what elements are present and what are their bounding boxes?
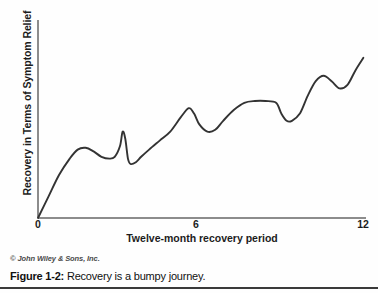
x-axis-label: Twelve-month recovery period xyxy=(38,232,366,244)
copyright-credit: © John Wiley & Sons, Inc. xyxy=(10,254,100,263)
figure-caption: Figure 1-2: Recovery is a bumpy journey. xyxy=(10,270,205,282)
chart-plot-area: Recovery in Terms of Symptom Relief 0 6 … xyxy=(0,0,378,250)
y-axis-label: Recovery in Terms of Symptom Relief xyxy=(21,0,33,208)
x-tick-label-12: 12 xyxy=(353,218,373,230)
figure-caption-label: Figure 1-2: xyxy=(10,270,64,282)
recovery-line-chart xyxy=(0,0,378,250)
x-tick-label-6: 6 xyxy=(186,218,206,230)
figure-container: Recovery in Terms of Symptom Relief 0 6 … xyxy=(0,0,378,293)
recovery-curve-path xyxy=(38,58,363,218)
x-tick-label-0: 0 xyxy=(28,218,48,230)
caption-divider xyxy=(0,287,378,289)
figure-caption-text: Recovery is a bumpy journey. xyxy=(64,270,205,282)
